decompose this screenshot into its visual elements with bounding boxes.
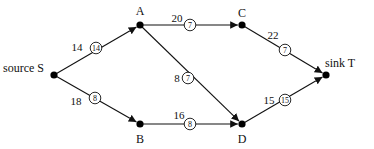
node-b: B <box>136 120 144 146</box>
edge-s-a: 1414 <box>54 27 136 75</box>
edge-b-d: 168 <box>140 109 238 130</box>
node-c: C <box>238 6 246 29</box>
node-dot <box>50 71 57 78</box>
node-label: D <box>238 132 247 146</box>
flow-value: 8 <box>188 120 192 129</box>
node-label: sink T <box>325 56 356 70</box>
node-label: A <box>136 4 145 18</box>
flow-value: 8 <box>93 94 97 103</box>
node-a: A <box>136 4 145 29</box>
node-t: sink T <box>322 56 355 79</box>
capacity-label: 14 <box>72 41 84 53</box>
node-dot <box>238 120 245 127</box>
node-dot <box>136 21 143 28</box>
edge-d-t: 1515 <box>242 77 322 124</box>
flow-value: 7 <box>186 74 190 83</box>
node-label: C <box>238 6 246 20</box>
node-dot <box>238 21 245 28</box>
flow-value: 15 <box>281 96 289 105</box>
edge-a-c: 207 <box>140 12 238 31</box>
node-s: source S <box>3 61 58 79</box>
capacity-label: 22 <box>268 29 279 41</box>
edges-layer: 1414188207872271681515 <box>54 12 322 130</box>
node-dot <box>136 120 143 127</box>
node-label: B <box>136 132 144 146</box>
flow-network-diagram: 1414188207872271681515 source SACsink TB… <box>0 0 374 149</box>
flow-value: 7 <box>188 21 192 30</box>
capacity-label: 18 <box>71 95 83 107</box>
node-dot <box>322 71 329 78</box>
capacity-label: 16 <box>174 109 186 121</box>
flow-value: 14 <box>92 44 100 53</box>
flow-value: 7 <box>283 46 287 55</box>
capacity-label: 20 <box>172 12 184 24</box>
capacity-label: 8 <box>174 72 180 84</box>
edge-a-d: 87 <box>140 25 239 121</box>
edge-c-t: 227 <box>242 25 322 73</box>
node-label: source S <box>3 61 44 75</box>
edge-s-b: 188 <box>54 75 136 122</box>
capacity-label: 15 <box>264 94 276 106</box>
node-d: D <box>238 120 247 146</box>
